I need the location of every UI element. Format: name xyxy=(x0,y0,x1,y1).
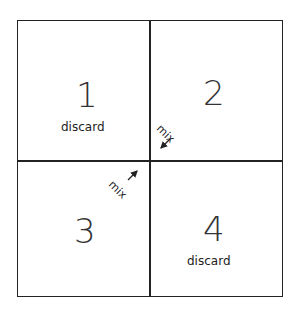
arrow-from-3-icon xyxy=(128,171,137,180)
mix-arrows xyxy=(0,0,296,316)
arrow-from-2-icon xyxy=(161,139,170,148)
